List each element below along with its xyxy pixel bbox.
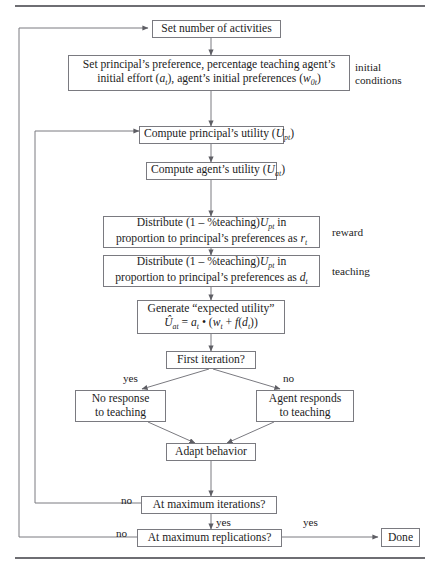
node-max-replications-decision: At maximum replications? [137,529,282,547]
side-label-initial-conditions: initial conditions [355,61,402,87]
node-no-response-to-teaching: No response to teaching [75,390,166,422]
node-agent-responds-to-teaching: Agent responds to teaching [256,390,354,422]
var-r-t: rt [300,232,307,245]
distribute-reward-line-2: proportion to principal’s preferences as… [116,232,307,245]
edge-label-max-replications-yes: yes [303,516,318,528]
var-initial-preferences: w0t [303,72,317,85]
node-distribute-teaching: Distribute (1 – %teaching)Upt in proport… [103,255,320,287]
node-initial-setup-text: Set principal’s preference, percentage t… [73,58,345,88]
no-response-line-2: to teaching [95,406,146,419]
node-compute-principal-utility-label: Compute principal’s utility (Upt) [144,127,279,142]
node-distribute-reward: Distribute (1 – %teaching)Upt in proport… [103,216,320,248]
side-label-reward: reward [332,226,363,239]
expected-utility-line-1: Generate “expected utility” [148,302,275,315]
node-first-iteration-label: First iteration? [171,353,251,366]
flowchart-figure: Set number of activities Set principal’s… [0,0,441,571]
initial-setup-line-2: initial effort (at), agent’s initial pre… [97,72,321,85]
expected-utility-formula: Ûat = at • (wt + f(dt)) [164,316,258,329]
edge-label-max-iterations-no: no [121,494,132,506]
node-done: Done [381,528,420,547]
initial-conditions-line-1: initial [355,61,381,73]
edge-label-max-iterations-yes: yes [216,516,231,528]
side-label-teaching: teaching [332,265,370,278]
node-generate-expected-utility-text: Generate “expected utility” Ûat = at • (… [142,302,280,332]
distribute-reward-line-1: Distribute (1 – %teaching)Upt in [137,216,287,229]
node-no-response-text: No response to teaching [80,392,161,420]
node-max-replications-label: At maximum replications? [142,531,277,544]
top-horizontal-rule [15,5,425,7]
var-w-t: wt [213,316,223,329]
var-a-t: at [191,316,199,329]
node-compute-agent-utility-label: Compute agent’s utility (Uat) [151,163,272,178]
node-max-iterations-decision: At maximum iterations? [141,496,277,514]
initial-setup-line-1: Set principal’s preference, percentage t… [83,58,335,71]
node-distribute-reward-text: Distribute (1 – %teaching)Upt in proport… [108,216,315,248]
side-label-teaching-text: teaching [332,265,370,277]
node-agent-responds-text: Agent responds to teaching [261,392,349,420]
side-label-reward-text: reward [332,226,363,238]
node-first-iteration-decision: First iteration? [166,351,256,369]
node-done-label: Done [386,531,415,544]
var-d-t: dt [300,271,308,284]
distribute-teaching-line-2: proportion to principal’s preferences as… [115,271,307,284]
no-response-line-1: No response [92,392,150,405]
var-u-hat-at: Ûat [164,316,179,329]
node-generate-expected-utility: Generate “expected utility” Ûat = at • (… [137,300,285,334]
bottom-horizontal-rule [15,557,425,559]
var-u-pt-reward: Upt [260,216,275,229]
edge-label-max-replications-no: no [116,527,127,539]
node-distribute-teaching-text: Distribute (1 – %teaching)Upt in proport… [108,255,315,287]
initial-conditions-line-2: conditions [355,74,402,86]
node-initial-setup: Set principal’s preference, percentage t… [68,55,350,91]
node-adapt-behavior-label: Adapt behavior [171,445,251,458]
node-set-number-of-activities-label: Set number of activities [157,22,276,35]
node-max-iterations-label: At maximum iterations? [146,498,272,511]
edge-label-first-iteration-yes: yes [123,372,138,384]
var-d-t-formula: dt [242,316,250,329]
var-u-pt: Upt [276,127,291,140]
var-u-pt-teaching: Upt [260,255,275,268]
agent-responds-line-1: Agent responds [269,392,341,405]
var-u-at: Uat [267,163,282,176]
node-compute-principal-utility: Compute principal’s utility (Upt) [139,126,284,144]
agent-responds-line-2: to teaching [279,406,330,419]
distribute-teaching-line-1: Distribute (1 – %teaching)Upt in [137,255,287,268]
node-compute-agent-utility: Compute agent’s utility (Uat) [146,162,277,180]
node-adapt-behavior: Adapt behavior [166,443,256,461]
edge-label-first-iteration-no: no [283,372,294,384]
node-set-number-of-activities: Set number of activities [152,20,281,38]
